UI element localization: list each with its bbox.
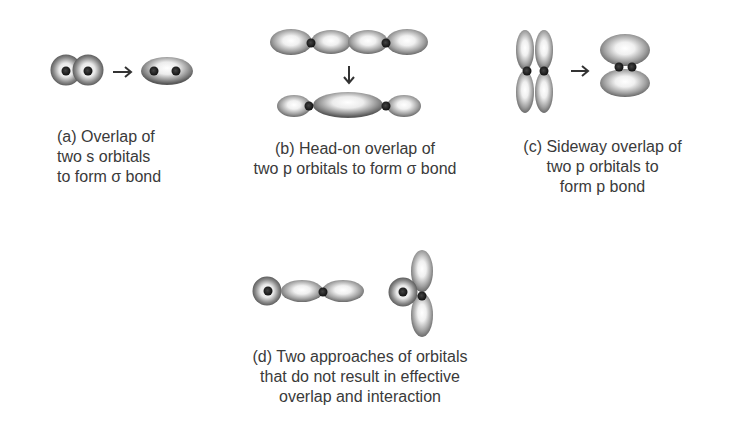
caption-d-line-2: that do not result in effective (225, 367, 495, 387)
p-orbitals-parallel (516, 30, 553, 113)
nucleus (399, 288, 408, 297)
arrow-down-icon (344, 66, 354, 83)
caption-a: (a) Overlap of two s orbitals to form σ … (57, 127, 161, 187)
caption-d: (d) Two approaches of orbitals that do n… (225, 347, 495, 407)
caption-a-line-2: two s orbitals (57, 147, 161, 167)
caption-c: (c) Sideway overlap of two p orbitals to… (510, 137, 695, 197)
sigma-bond-p (277, 92, 421, 118)
nucleus (150, 67, 159, 76)
sigma-bond-s (141, 57, 193, 85)
nucleus (84, 67, 93, 76)
nucleus (418, 292, 427, 301)
nucleus (382, 102, 391, 111)
caption-d-line-1: (d) Two approaches of orbitals (225, 347, 495, 367)
pi-bond (600, 34, 650, 97)
caption-c-line-1: (c) Sideway overlap of (510, 137, 695, 157)
p-orbitals-end-to-end (270, 29, 428, 55)
approach-two (389, 250, 434, 337)
nucleus (382, 39, 391, 48)
nucleus (523, 67, 532, 76)
nucleus (62, 67, 71, 76)
panel-b-diagram (270, 29, 428, 118)
nucleus (307, 39, 316, 48)
caption-b-line-2: two p orbitals to form σ bond (230, 159, 480, 179)
arrow-right-icon (113, 67, 131, 77)
caption-d-line-3: overlap and interaction (225, 387, 495, 407)
nucleus (264, 287, 273, 296)
s-orbital-pair (51, 55, 104, 86)
caption-a-line-1: (a) Overlap of (57, 127, 161, 147)
nucleus (172, 67, 181, 76)
panel-a-diagram (51, 55, 194, 86)
caption-c-line-3: form p bond (510, 177, 695, 197)
caption-b-line-1: (b) Head-on overlap of (230, 139, 480, 159)
nucleus (305, 102, 314, 111)
panel-d-diagram (253, 250, 434, 337)
caption-a-line-3: to form σ bond (57, 167, 161, 187)
arrow-right-icon (571, 66, 588, 76)
nucleus (628, 63, 637, 72)
caption-b: (b) Head-on overlap of two p orbitals to… (230, 139, 480, 179)
approach-one (253, 277, 365, 306)
panel-c-diagram (516, 30, 650, 113)
nucleus (319, 288, 328, 297)
nucleus (615, 63, 624, 72)
caption-c-line-2: two p orbitals to (510, 157, 695, 177)
nucleus (540, 67, 549, 76)
